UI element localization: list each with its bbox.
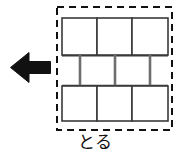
brick[interactable] (97, 18, 132, 55)
brick[interactable] (62, 86, 97, 121)
brick[interactable] (132, 18, 168, 55)
brick[interactable] (97, 86, 132, 121)
brick[interactable] (62, 18, 97, 55)
arrow-left-icon (11, 53, 51, 83)
brick-removal-diagram: とる (0, 0, 190, 160)
brick-row-bottom (62, 86, 168, 121)
caption-label: とる (0, 131, 190, 153)
brick[interactable] (132, 86, 168, 121)
brick-row-middle (62, 55, 168, 86)
brick-row-top (62, 18, 168, 55)
